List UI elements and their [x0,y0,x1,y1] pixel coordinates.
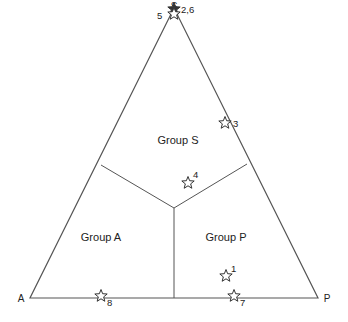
point-label: 5 [157,10,162,21]
vertex-label-a: A [18,293,25,304]
point-label: 4 [193,169,198,180]
point-label: 8 [107,297,112,308]
diagram-canvas: SAPGroup SGroup AGroup P 12,634578 [0,0,348,322]
region-label-group-a: Group A [81,231,122,243]
data-point-7: 7 [228,290,245,309]
star-icon [95,290,107,302]
vertex-label-p: P [324,293,331,304]
region-label-group-s: Group S [158,134,199,146]
data-point-4: 4 [182,169,198,188]
divider-left [101,165,174,208]
data-point-1: 1 [220,263,236,281]
ternary-diagram: SAPGroup SGroup AGroup P 12,634578 [0,0,348,322]
point-label: 3 [233,118,238,129]
data-point-8: 8 [95,290,112,309]
point-label: 1 [231,263,236,274]
point-label: 7 [240,297,245,308]
region-label-group-p: Group P [206,231,247,243]
point-label: 2,6 [181,4,194,15]
star-icon [228,290,240,302]
